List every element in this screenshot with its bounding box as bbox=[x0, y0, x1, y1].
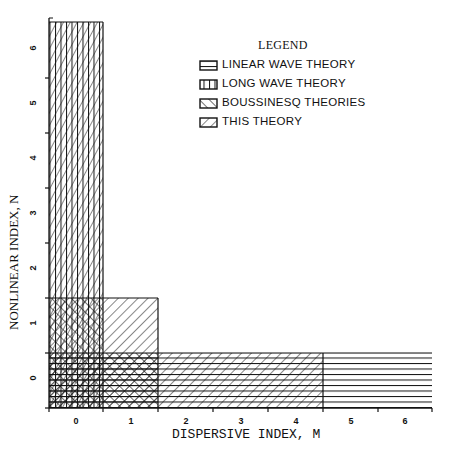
y-tick-4: 4 bbox=[28, 151, 38, 165]
x-tick-0: 0 bbox=[66, 416, 86, 426]
legend-swatch-boussinesq bbox=[200, 99, 217, 108]
x-tick-6: 6 bbox=[395, 416, 415, 426]
x-tick-4: 4 bbox=[286, 416, 306, 426]
x-tick-5: 5 bbox=[341, 416, 361, 426]
y-tick-6: 6 bbox=[28, 41, 38, 55]
y-tick-3: 3 bbox=[28, 206, 38, 220]
legend-swatches bbox=[200, 61, 217, 127]
legend: LEGEND LINEAR WAVE THEORY LONG WAVE THEO… bbox=[222, 38, 366, 133]
y-tick-0: 0 bbox=[28, 371, 38, 385]
y-axis-label: NONLINEAR INDEX, N bbox=[6, 195, 22, 330]
x-axis-label: DISPERSIVE INDEX, M bbox=[172, 427, 320, 442]
y-tick-5: 5 bbox=[28, 96, 38, 110]
legend-title: LEGEND bbox=[258, 38, 366, 57]
legend-item-long-wave: LONG WAVE THEORY bbox=[222, 76, 366, 95]
x-tick-3: 3 bbox=[231, 416, 251, 426]
legend-item-this-theory: THIS THEORY bbox=[222, 114, 366, 133]
legend-item-linear-wave: LINEAR WAVE THEORY bbox=[222, 57, 366, 76]
legend-swatch-linear-wave bbox=[200, 61, 217, 70]
legend-swatch-this-theory bbox=[200, 118, 217, 127]
legend-swatch-long-wave bbox=[200, 80, 217, 89]
x-tick-2: 2 bbox=[176, 416, 196, 426]
y-tick-1: 1 bbox=[28, 316, 38, 330]
x-tick-1: 1 bbox=[121, 416, 141, 426]
y-tick-2: 2 bbox=[28, 261, 38, 275]
legend-item-boussinesq: BOUSSINESQ THEORIES bbox=[222, 95, 366, 114]
